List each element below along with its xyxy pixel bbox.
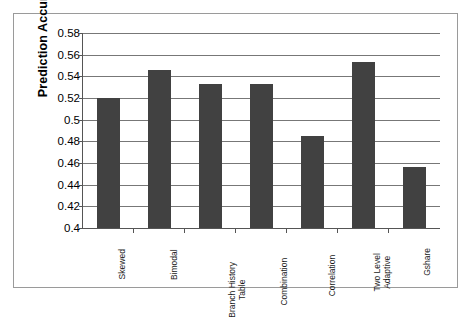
x-axis-label: Correlation xyxy=(286,234,338,296)
bar-slot xyxy=(134,33,185,228)
x-axis-label: Bimodal xyxy=(133,234,185,296)
x-axis-label: Two LevelAdaptive xyxy=(337,234,389,296)
y-tick-label: 0.46 xyxy=(34,158,80,169)
x-axis-label: Branch HistoryTable xyxy=(184,234,236,296)
bar xyxy=(97,98,121,228)
y-tick-label: 0.58 xyxy=(34,28,80,39)
y-axis-tick-labels: 0.580.560.540.520.50.480.460.440.420.4 xyxy=(34,26,80,234)
bar-slot xyxy=(389,33,440,228)
x-tick-mark xyxy=(133,229,134,233)
x-axis-label: Gshare xyxy=(388,234,440,296)
bar-slot xyxy=(338,33,389,228)
bar xyxy=(403,167,427,228)
bar-slot xyxy=(287,33,338,228)
x-tick-mark xyxy=(286,229,287,233)
bar-slot xyxy=(236,33,287,228)
bar-slot xyxy=(185,33,236,228)
plot-area xyxy=(82,33,440,229)
x-tick-mark xyxy=(388,229,389,233)
y-tick-label: 0.42 xyxy=(34,201,80,212)
x-axis-label-text: Bimodal xyxy=(169,249,179,280)
y-tick-label: 0.4 xyxy=(34,223,80,234)
x-axis-label: Skewed xyxy=(82,234,134,296)
y-tick-label: 0.54 xyxy=(34,71,80,82)
bar-slot xyxy=(83,33,134,228)
y-tick-label: 0.52 xyxy=(34,93,80,104)
x-axis-label: Combination xyxy=(235,234,287,296)
y-tick-label: 0.48 xyxy=(34,136,80,147)
x-tick-mark xyxy=(337,229,338,233)
x-tick-mark xyxy=(184,229,185,233)
x-axis-category-labels: SkewedBimodalBranch HistoryTableCombinat… xyxy=(82,234,440,296)
bar xyxy=(148,70,172,228)
bar-series xyxy=(83,33,440,228)
y-tick-label: 0.56 xyxy=(34,49,80,60)
x-axis-label-text: Gshare xyxy=(423,248,433,276)
bar xyxy=(199,84,223,228)
y-tick-label: 0.5 xyxy=(34,114,80,125)
bar xyxy=(301,136,325,228)
chart-frame: Prediction Accuracy 0.580.560.540.520.50… xyxy=(13,13,458,288)
bar xyxy=(352,62,376,228)
x-tick-mark xyxy=(235,229,236,233)
x-axis-label-text: Skewed xyxy=(118,249,128,279)
bar xyxy=(250,84,274,228)
y-tick-label: 0.44 xyxy=(34,179,80,190)
